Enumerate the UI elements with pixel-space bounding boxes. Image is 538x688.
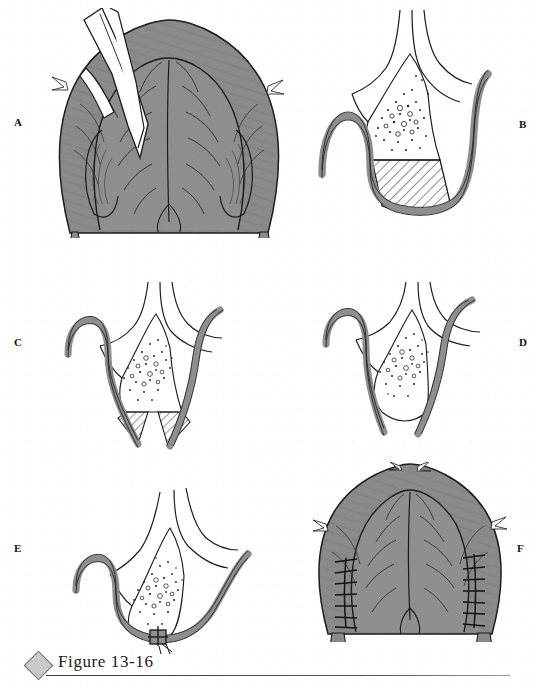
panel-label-a: A <box>14 117 22 128</box>
panel-label-c: C <box>14 337 22 348</box>
tissue-body <box>366 54 440 160</box>
panel-label-f: F <box>517 543 524 554</box>
panel-a-illustration <box>40 8 290 238</box>
figure-caption-block: Figure 13-16 <box>28 650 518 684</box>
figure-caption-text: Figure 13-16 <box>58 652 154 672</box>
mobilized-flap-edges <box>375 310 429 421</box>
panel-f-illustration <box>302 462 517 642</box>
tissue-body <box>120 314 182 412</box>
panel-label-b: B <box>519 119 527 130</box>
caption-rule <box>46 675 510 676</box>
panel-d-illustration <box>322 282 507 452</box>
figure-page: A <box>0 0 538 688</box>
panel-c-illustration <box>62 282 252 452</box>
mucosa-band-left <box>326 312 384 432</box>
panel-b-illustration <box>312 10 502 225</box>
panel-label-e: E <box>14 543 22 554</box>
panel-e-illustration <box>62 484 257 654</box>
panel-label-d: D <box>519 337 527 348</box>
